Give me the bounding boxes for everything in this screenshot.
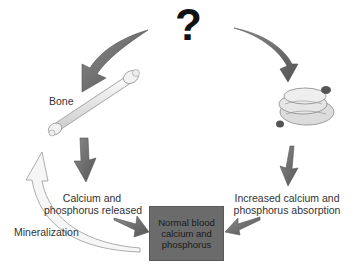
center-box-label: Normal blood calcium and phosphorus bbox=[158, 217, 215, 250]
arrow-bone-down-icon bbox=[74, 138, 96, 182]
normal-blood-calcium-box: Normal blood calcium and phosphorus bbox=[149, 206, 224, 261]
calcium-released-label: Calcium and phosphorus released bbox=[44, 192, 140, 216]
increased-absorption-line1: Increased calcium and bbox=[228, 192, 346, 204]
arrow-released-to-center-icon bbox=[114, 216, 149, 237]
arrow-question-to-bone-icon bbox=[82, 30, 148, 92]
calcium-regulation-diagram: ? Bone Calcium and phosphorus released I… bbox=[0, 0, 356, 270]
arrow-question-to-intestine-icon bbox=[234, 28, 298, 82]
increased-absorption-line2: phosphorus absorption bbox=[228, 204, 346, 216]
increased-absorption-label: Increased calcium and phosphorus absorpt… bbox=[228, 192, 346, 216]
unknown-regulator-symbol: ? bbox=[175, 3, 202, 47]
calcium-released-line1: Calcium and bbox=[44, 192, 140, 204]
arrow-absorption-to-center-icon bbox=[225, 217, 260, 235]
calcium-released-line2: phosphorus released bbox=[44, 204, 140, 216]
bone-label: Bone bbox=[49, 95, 74, 107]
arrow-intestine-down-icon bbox=[280, 146, 298, 186]
mineralization-label: Mineralization bbox=[14, 226, 79, 238]
intestine-icon bbox=[276, 86, 334, 128]
